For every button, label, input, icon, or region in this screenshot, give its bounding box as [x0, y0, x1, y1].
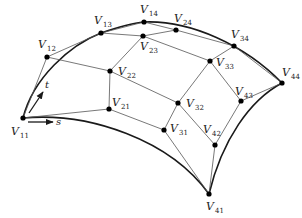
param-s-label: s — [56, 116, 61, 127]
boundary-curve — [144, 22, 282, 83]
control-point-v22 — [107, 68, 112, 73]
control-point-v33 — [207, 58, 212, 63]
label-v12: V12 — [38, 38, 56, 53]
control-point-v34 — [231, 43, 236, 48]
label-v23: V23 — [140, 40, 158, 55]
control-point-v44 — [279, 80, 284, 85]
control-point-v21 — [106, 106, 111, 111]
control-point-v12 — [44, 54, 49, 59]
control-point-v32 — [175, 100, 180, 105]
label-v24: V24 — [174, 12, 192, 27]
label-v33: V33 — [216, 56, 234, 71]
control-point-v24 — [173, 27, 178, 32]
control-point-v23 — [140, 33, 145, 38]
diagram-canvas: st V11V12V13V14V21V22V23V24V31V32V33V34V… — [0, 0, 302, 218]
param-t-label: t — [45, 79, 50, 90]
control-net-line — [144, 22, 282, 83]
control-point-v14 — [141, 19, 146, 24]
label-v22: V22 — [118, 65, 136, 80]
label-v13: V13 — [94, 14, 112, 29]
control-point-v11 — [20, 115, 25, 120]
label-v34: V34 — [231, 28, 249, 43]
label-v42: V42 — [203, 123, 221, 138]
control-point-v41 — [206, 191, 211, 196]
bezier-patch-diagram: st V11V12V13V14V21V22V23V24V31V32V33V34V… — [0, 0, 302, 218]
control-point-v43 — [238, 98, 243, 103]
label-v32: V32 — [186, 97, 204, 112]
label-v11: V11 — [11, 125, 29, 140]
control-point-v13 — [98, 30, 103, 35]
label-v14: V14 — [140, 3, 158, 18]
control-point-v42 — [212, 142, 217, 147]
label-v31: V31 — [170, 122, 188, 137]
control-points — [20, 19, 284, 196]
point-labels: V11V12V13V14V21V22V23V24V31V32V33V34V41V… — [11, 3, 300, 215]
control-point-v31 — [161, 127, 166, 132]
label-v41: V41 — [206, 200, 224, 215]
label-v43: V43 — [235, 85, 253, 100]
label-v44: V44 — [282, 66, 300, 81]
parameter-arrows: st — [28, 79, 61, 127]
label-v21: V21 — [112, 96, 130, 111]
